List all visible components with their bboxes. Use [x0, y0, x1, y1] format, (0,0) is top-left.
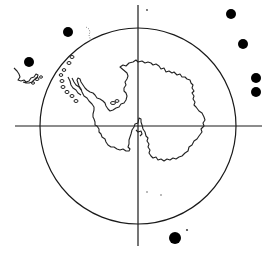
station-marker-dot [169, 232, 181, 244]
dotted-trace [86, 27, 90, 41]
station-marker-dot [251, 87, 261, 97]
station-marker-dot [238, 39, 248, 49]
station-marker-dot [24, 57, 34, 67]
antarctica-polar-map [0, 0, 271, 259]
peninsula-islands [59, 56, 119, 105]
station-marker-dot [226, 9, 236, 19]
antarctica-coastline [77, 60, 205, 161]
ross-sea-notch [136, 130, 142, 136]
station-marker-dot [251, 73, 261, 83]
speck [186, 229, 188, 231]
speck [146, 191, 147, 192]
speck [160, 194, 161, 195]
station-marker-dot [63, 27, 73, 37]
south-america-tip [14, 68, 38, 83]
speck [146, 9, 148, 11]
